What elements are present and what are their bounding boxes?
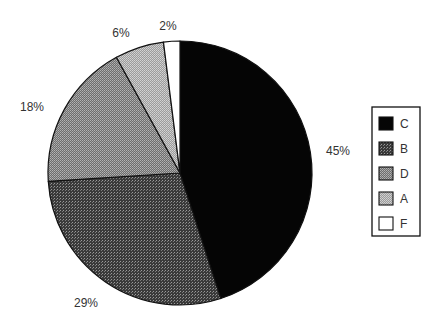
legend-label-a: A bbox=[400, 192, 408, 206]
pie-slices bbox=[48, 41, 312, 305]
legend-label-d: D bbox=[400, 167, 409, 181]
slice-label-c: 45% bbox=[326, 144, 350, 158]
legend: CBDAF bbox=[372, 107, 420, 236]
legend-swatch-f bbox=[379, 217, 393, 230]
legend-swatch-a bbox=[379, 192, 393, 205]
slice-label-a: 6% bbox=[112, 26, 130, 40]
slice-label-b: 29% bbox=[74, 296, 98, 310]
legend-swatch-c bbox=[379, 117, 393, 130]
slice-label-f: 2% bbox=[159, 19, 177, 33]
pie-chart: 45%29%18%6%2% CBDAF bbox=[0, 0, 438, 325]
legend-label-c: C bbox=[400, 117, 409, 131]
legend-swatch-d bbox=[379, 167, 393, 180]
legend-label-f: F bbox=[400, 217, 407, 231]
slice-label-d: 18% bbox=[20, 100, 44, 114]
legend-swatch-b bbox=[379, 142, 393, 155]
legend-label-b: B bbox=[400, 142, 408, 156]
